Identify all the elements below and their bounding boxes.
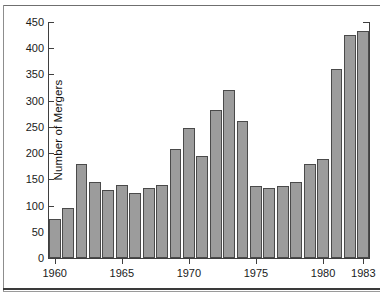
x-tick-mark: [363, 259, 364, 264]
y-tick-mark: [49, 48, 54, 49]
bar-1969: [170, 149, 182, 258]
bar-1973: [223, 90, 235, 258]
bar-1964: [102, 190, 114, 258]
bar-1982: [344, 35, 356, 258]
y-tick-label: 150: [26, 174, 44, 185]
y-tick-mark: [49, 127, 54, 128]
x-tick-label: 1970: [177, 267, 201, 279]
y-tick-label: 250: [26, 121, 44, 132]
y-tick-label: 300: [26, 95, 44, 106]
plot-area: 050100150200250300350400450 196019651970…: [48, 22, 370, 259]
x-tick-label: 1983: [351, 267, 375, 279]
y-tick-label: 400: [26, 43, 44, 54]
x-tick-mark: [189, 259, 190, 264]
y-tick-label: 450: [26, 17, 44, 28]
bar-1980: [317, 159, 329, 258]
y-tick-label: 350: [26, 69, 44, 80]
y-axis-title-container: Number of Mergers: [2, 0, 20, 259]
bar-1979: [304, 164, 316, 258]
y-tick-mark: [49, 101, 54, 102]
bar-1971: [196, 156, 208, 258]
y-tick-label: 0: [38, 253, 44, 264]
x-tick-mark: [256, 259, 257, 264]
bar-1975: [250, 186, 262, 258]
bar-1967: [143, 188, 155, 258]
bar-1978: [290, 182, 302, 258]
x-tick-mark: [323, 259, 324, 264]
y-tick-mark: [49, 206, 54, 207]
y-tick-mark: [49, 22, 54, 23]
y-tick-label: 50: [32, 226, 44, 237]
x-tick-label: 1980: [311, 267, 335, 279]
bar-1983: [357, 31, 369, 258]
figure-rule-bottom: [3, 288, 380, 290]
y-tick-mark: [49, 258, 54, 259]
y-tick-label: 200: [26, 148, 44, 159]
bar-1963: [89, 182, 101, 258]
bar-1960: [49, 219, 61, 258]
x-tick-label: 1965: [110, 267, 134, 279]
bar-1966: [129, 193, 141, 258]
bar-1962: [76, 164, 88, 258]
bar-1972: [210, 110, 222, 258]
bar-1968: [156, 185, 168, 258]
bar-1974: [237, 121, 249, 258]
x-tick-label: 1975: [244, 267, 268, 279]
bar-1965: [116, 185, 128, 258]
bar-1976: [263, 188, 275, 258]
x-tick-label: 1960: [42, 267, 66, 279]
bar-1981: [331, 69, 343, 258]
bar-1961: [62, 208, 74, 258]
y-tick-label: 100: [26, 200, 44, 211]
x-tick-mark: [55, 259, 56, 264]
figure-rule-bottom-thin: [3, 291, 380, 292]
y-tick-mark: [49, 179, 54, 180]
y-tick-mark: [49, 153, 54, 154]
bar-1977: [277, 186, 289, 258]
figure-rule-top: [3, 5, 380, 6]
x-axis-line: [48, 258, 370, 259]
axis-top-right-cap: [363, 22, 370, 23]
y-tick-mark: [49, 74, 54, 75]
x-tick-mark: [122, 259, 123, 264]
bar-1970: [183, 128, 195, 258]
